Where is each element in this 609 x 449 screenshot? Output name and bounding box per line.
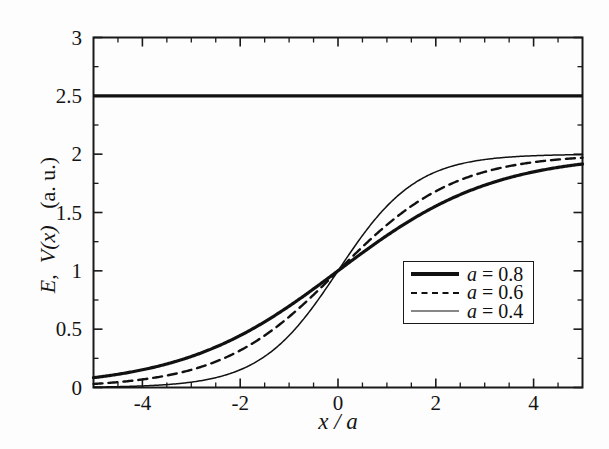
legend-line-sample-dashed	[409, 287, 461, 299]
x-axis-title: x / a	[318, 409, 358, 435]
legend-box: a = 0.8 a = 0.6 a = 0.4	[403, 261, 534, 324]
legend-item: a = 0.4	[409, 302, 528, 321]
axes-frame	[94, 38, 583, 388]
x-tick-label: -4	[134, 391, 152, 416]
legend-item-label: a = 0.4	[467, 300, 523, 323]
legend-line-sample-thin-solid	[409, 305, 461, 317]
y-tick-label: 3	[30, 25, 82, 50]
x-axis-title-x: x	[318, 409, 328, 434]
x-tick-label: 2	[431, 391, 442, 416]
axis-ticks	[94, 38, 583, 388]
data-curves	[94, 96, 583, 387]
x-tick-label: 4	[528, 391, 539, 416]
x-tick-label: -2	[231, 391, 249, 416]
y-tick-label: 2.5	[30, 83, 82, 108]
y-axis-title-comma: ,	[35, 274, 60, 280]
y-tick-label: 0	[30, 375, 82, 400]
y-axis-title-units: (a. u.)	[35, 157, 60, 209]
plot-canvas	[0, 0, 609, 449]
legend-line-sample-thick-solid	[409, 268, 461, 280]
y-axis-title-e: E	[35, 280, 60, 293]
figure-container: 00.511.522.53 -4-2024 x / a E, V(x) (a. …	[0, 0, 609, 449]
y-axis-title-v: V(x)	[35, 225, 60, 263]
x-axis-title-a: a	[346, 409, 358, 434]
y-axis-title: E, V(x) (a. u.)	[35, 115, 61, 335]
